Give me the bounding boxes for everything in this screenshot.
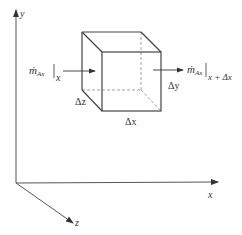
z-axis bbox=[16, 183, 73, 223]
control-volume-diagram: y x z Δz Δy Δx ṁAx x bbox=[0, 0, 242, 235]
z-axis-label: z bbox=[74, 217, 79, 228]
coordinate-axes: y x z bbox=[16, 8, 218, 228]
dx-label: Δx bbox=[125, 116, 136, 127]
outflow-eval-at: x + Δx bbox=[207, 72, 232, 82]
x-axis-label: x bbox=[207, 189, 213, 200]
inflow-eval-at: x bbox=[55, 72, 61, 83]
x-axis bbox=[16, 182, 218, 183]
outflow-flux: ṁAx x + Δx bbox=[153, 63, 232, 82]
y-axis-label: y bbox=[19, 8, 25, 19]
outflow-symbol: ṁAx bbox=[187, 63, 203, 77]
cube: Δz Δy Δx bbox=[75, 32, 179, 127]
inflow-symbol: ṁAx bbox=[29, 64, 45, 78]
inflow-flux: ṁAx x bbox=[29, 64, 95, 83]
visible-edges bbox=[82, 32, 161, 111]
dz-label: Δz bbox=[75, 96, 86, 107]
dy-label: Δy bbox=[168, 80, 179, 91]
